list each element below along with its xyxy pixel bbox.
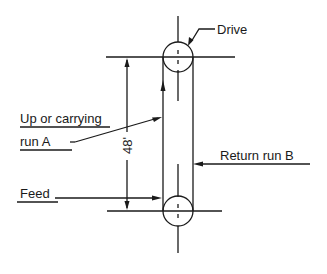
- dimension-arrow-bottom-icon: [125, 201, 130, 210]
- feed-label: Feed: [20, 187, 50, 200]
- drive-label: Drive: [217, 23, 247, 36]
- up-arrow-icon: [161, 80, 166, 91]
- conveyor-diagram: Drive Up or carrying run A Return run B …: [0, 0, 327, 274]
- return-run-arrow-icon: [193, 162, 203, 167]
- carrying-run-label-line2: run A: [20, 135, 50, 148]
- dimension-label: 48': [121, 134, 134, 158]
- return-run-label: Return run B: [220, 149, 294, 162]
- feed-arrow-icon: [152, 196, 162, 201]
- dimension-arrow-top-icon: [125, 58, 130, 67]
- carrying-run-arrow-icon: [152, 117, 162, 122]
- carrying-run-label-line1: Up or carrying: [20, 112, 102, 125]
- drive-leader: [191, 29, 215, 42]
